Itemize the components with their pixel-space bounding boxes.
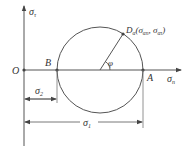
point-d	[121, 32, 124, 35]
horizontal-axis-label: σn	[167, 73, 175, 85]
vertical-axis-label: στ	[29, 6, 37, 18]
origin-label: O	[12, 65, 19, 76]
sigma2-label: σ2	[35, 85, 43, 97]
point-a-label: A	[146, 72, 154, 83]
point-d-label: Dα(σαn, σατ)	[125, 25, 165, 36]
angle-label: φ	[108, 58, 113, 68]
point-origin	[22, 68, 25, 71]
mohr-circle-diagram: στ σn O B A Dα(σαn, σατ) φ σ2 σ1	[0, 0, 193, 149]
sigma1-label: σ1	[83, 117, 91, 129]
point-b-label: B	[45, 57, 51, 68]
